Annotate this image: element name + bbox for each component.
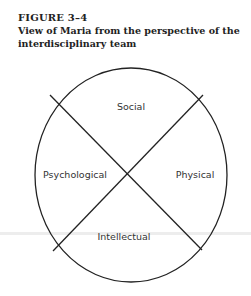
quadrant-diagram: Social Psychological Physical Intellectu… bbox=[0, 0, 251, 296]
segment-label-social: Social bbox=[117, 101, 145, 112]
segment-label-physical: Physical bbox=[176, 169, 215, 180]
segment-label-intellectual: Intellectual bbox=[98, 231, 151, 242]
segment-label-psychological: Psychological bbox=[43, 169, 107, 180]
